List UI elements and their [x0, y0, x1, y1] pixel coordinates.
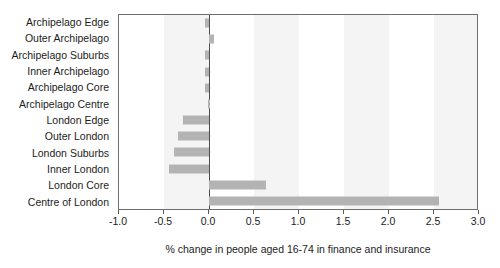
axis-tick-label: 2.0 — [381, 215, 396, 227]
bar — [205, 67, 210, 76]
axis-tick-label: 1.0 — [291, 215, 306, 227]
axis-tick-label: 3.0 — [471, 215, 486, 227]
category-label: London Edge — [0, 112, 114, 128]
bar-row — [119, 193, 477, 209]
bar-row — [119, 144, 477, 160]
axis-tick — [433, 210, 434, 214]
bar-chart-figure: Archipelago EdgeOuter ArchipelagoArchipe… — [0, 0, 500, 268]
axis-tick — [118, 210, 119, 214]
axis-tick-label: 2.5 — [426, 215, 441, 227]
axis-tick — [163, 210, 164, 214]
axis-tick — [388, 210, 389, 214]
bar-row — [119, 31, 477, 47]
bar-row — [119, 112, 477, 128]
axis-tick — [343, 210, 344, 214]
bar — [208, 99, 210, 108]
axis-tick-label: 0.0 — [201, 215, 216, 227]
axis-tick-label: 1.5 — [336, 215, 351, 227]
axis-tick — [478, 210, 479, 214]
bar — [183, 116, 209, 125]
bar — [169, 164, 210, 173]
bar — [209, 180, 266, 189]
bar-row — [119, 161, 477, 177]
bar-row — [119, 15, 477, 31]
bar-row — [119, 64, 477, 80]
bar-row — [119, 128, 477, 144]
category-label: Inner London — [0, 161, 114, 177]
bar-row — [119, 47, 477, 63]
axis-tick — [208, 210, 209, 214]
category-label: Inner Archipelago — [0, 63, 114, 79]
bar — [209, 196, 439, 205]
category-axis-labels: Archipelago EdgeOuter ArchipelagoArchipe… — [0, 14, 114, 210]
category-label: London Suburbs — [0, 145, 114, 161]
bar — [205, 51, 210, 60]
category-label: Archipelago Core — [0, 79, 114, 95]
axis-tick — [253, 210, 254, 214]
plot-area — [118, 14, 478, 210]
category-label: Centre of London — [0, 194, 114, 210]
bar-row — [119, 177, 477, 193]
category-label: Archipelago Edge — [0, 14, 114, 30]
value-axis: -1.0-0.50.00.51.01.52.02.53.0 — [118, 210, 478, 232]
bar — [205, 83, 210, 92]
x-axis-title: % change in people aged 16-74 in finance… — [118, 243, 478, 255]
bar — [178, 132, 210, 141]
bar-rows — [119, 15, 477, 209]
axis-tick-label: -0.5 — [154, 215, 172, 227]
category-label: London Core — [0, 177, 114, 193]
bar-row — [119, 96, 477, 112]
bar — [205, 19, 210, 28]
axis-tick — [298, 210, 299, 214]
bar — [174, 148, 209, 157]
axis-tick-label: 0.5 — [246, 215, 261, 227]
category-label: Outer Archipelago — [0, 30, 114, 46]
category-label: Archipelago Centre — [0, 96, 114, 112]
category-label: Outer London — [0, 128, 114, 144]
axis-tick-label: -1.0 — [109, 215, 127, 227]
bar-row — [119, 80, 477, 96]
category-label: Archipelago Suburbs — [0, 47, 114, 63]
bar — [209, 35, 214, 44]
